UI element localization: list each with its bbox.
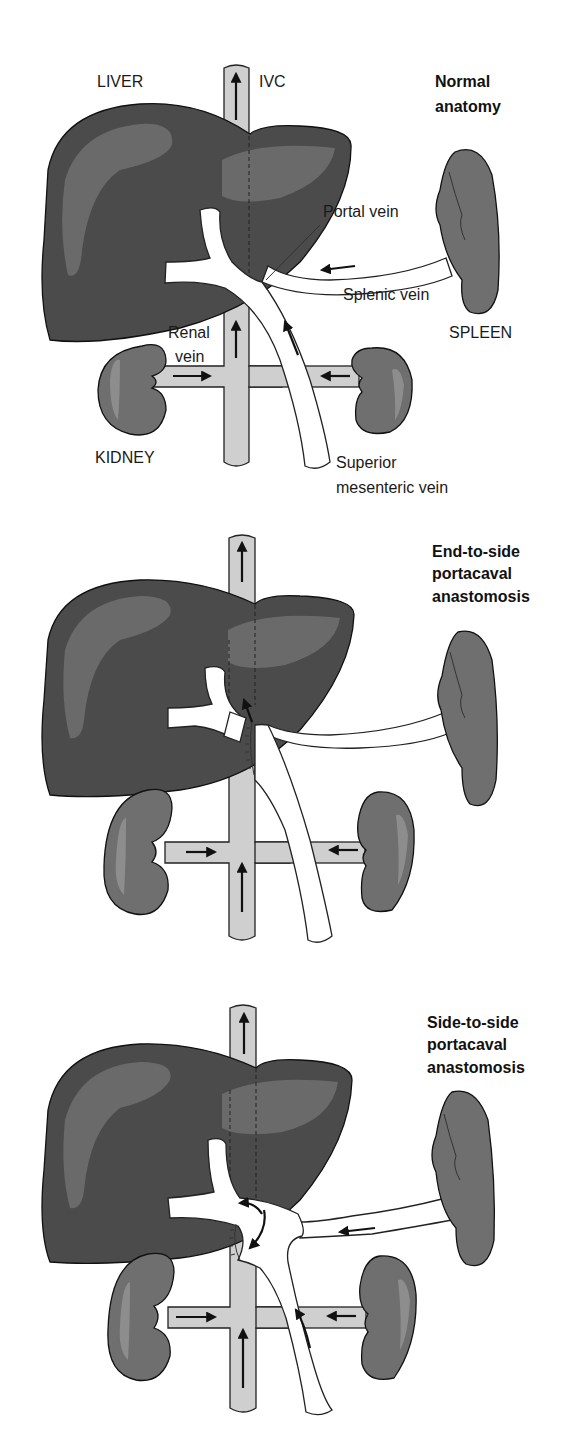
portal-vein-anastomosed bbox=[255, 725, 332, 943]
right-renal-vein bbox=[256, 1307, 366, 1328]
title-end-to-side-line2: portacaval bbox=[432, 565, 512, 582]
liver bbox=[42, 104, 351, 342]
label-splenic-vein: Splenic vein bbox=[343, 286, 429, 303]
portacaval-shunt-diagram: LIVER IVC Normal anatomy Portal vein Spl… bbox=[0, 0, 583, 1429]
panel-end-to-side: End-to-side portacaval anastomosis bbox=[42, 535, 530, 942]
spleen bbox=[436, 150, 499, 314]
title-side-to-side-line1: Side-to-side bbox=[427, 1014, 519, 1031]
spleen bbox=[432, 1091, 494, 1266]
label-renal-vein-2: vein bbox=[175, 348, 204, 365]
title-side-to-side-line3: anastomosis bbox=[427, 1059, 525, 1076]
spleen bbox=[438, 631, 498, 806]
title-normal-line1: Normal bbox=[435, 73, 490, 90]
left-kidney bbox=[104, 789, 172, 914]
panel-side-to-side: Side-to-side portacaval anastomosis bbox=[42, 1005, 525, 1415]
left-kidney bbox=[98, 345, 166, 435]
label-liver: LIVER bbox=[97, 73, 143, 90]
label-kidney: KIDNEY bbox=[95, 449, 155, 466]
label-spleen: SPLEEN bbox=[449, 324, 512, 341]
label-smv-1: Superior bbox=[336, 454, 397, 471]
label-ivc: IVC bbox=[259, 73, 286, 90]
label-portal-vein: Portal vein bbox=[323, 203, 399, 220]
title-normal-line2: anatomy bbox=[435, 98, 501, 115]
panel-normal-anatomy: LIVER IVC Normal anatomy Portal vein Spl… bbox=[42, 65, 512, 496]
left-kidney bbox=[108, 1253, 174, 1380]
splenic-vein bbox=[300, 1198, 452, 1238]
label-smv-2: mesenteric vein bbox=[336, 479, 448, 496]
title-end-to-side-line3: anastomosis bbox=[432, 588, 530, 605]
title-side-to-side-line2: portacaval bbox=[427, 1036, 507, 1053]
title-end-to-side-line1: End-to-side bbox=[432, 543, 520, 560]
flow-arrow bbox=[322, 266, 355, 270]
label-renal-vein-1: Renal bbox=[168, 324, 210, 341]
